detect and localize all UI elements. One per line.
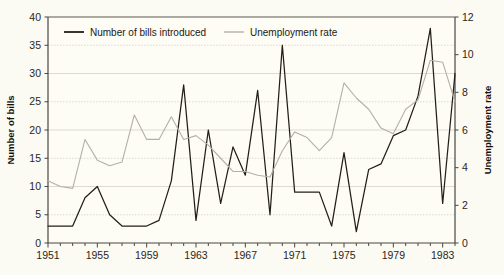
y-axis-title-right: Unemployment rate [482, 86, 493, 175]
y-tick-label-right: 8 [462, 86, 468, 98]
y-tick-label-left: 20 [29, 124, 41, 136]
y-tick-label-right: 10 [462, 48, 474, 60]
chart-container: 0510152025303540024681012195119551959196… [0, 0, 504, 275]
y-tick-label-right: 0 [462, 237, 468, 249]
y-tick-label-left: 25 [29, 95, 41, 107]
line-chart: 0510152025303540024681012195119551959196… [0, 0, 504, 275]
y-tick-label-right: 12 [462, 11, 474, 23]
y-axis-title-left: Number of bills [5, 95, 16, 164]
x-tick-label: 1983 [431, 249, 455, 261]
y-tick-label-left: 30 [29, 67, 41, 79]
x-tick-label: 1979 [382, 249, 406, 261]
y-tick-label-left: 5 [35, 208, 41, 220]
x-tick-label: 1955 [86, 249, 110, 261]
x-tick-label: 1971 [283, 249, 307, 261]
legend-label-1: Unemployment rate [250, 27, 338, 38]
y-tick-label-right: 2 [462, 199, 468, 211]
y-tick-label-left: 35 [29, 39, 41, 51]
legend-label-0: Number of bills introduced [90, 27, 206, 38]
y-tick-label-left: 10 [29, 180, 41, 192]
x-tick-label: 1967 [234, 249, 258, 261]
y-tick-label-right: 6 [462, 124, 468, 136]
x-tick-label: 1975 [332, 249, 356, 261]
x-tick-label: 1959 [135, 249, 159, 261]
y-tick-label-right: 4 [462, 161, 468, 173]
y-tick-label-left: 40 [29, 11, 41, 23]
x-tick-label: 1963 [184, 249, 208, 261]
y-tick-label-left: 15 [29, 152, 41, 164]
y-tick-label-left: 0 [35, 237, 41, 249]
x-tick-label: 1951 [36, 249, 60, 261]
